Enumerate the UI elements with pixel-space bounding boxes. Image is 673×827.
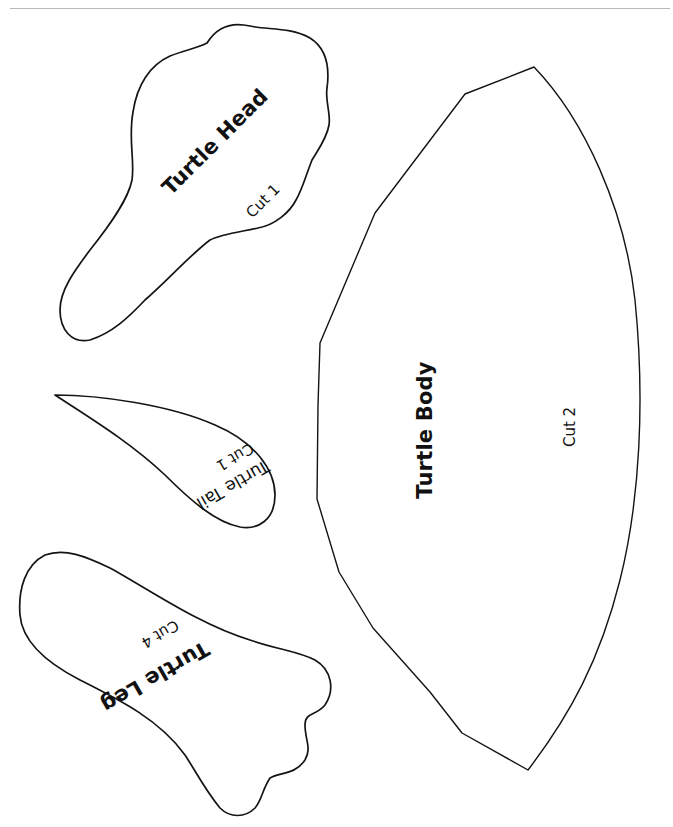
body-outline — [317, 67, 640, 770]
body-cut-count: Cut 2 — [561, 397, 579, 457]
body-title: Turtle Body — [413, 355, 437, 505]
pattern-sheet: Turtle Head Cut 1 Turtle Tail Cut 1 Turt… — [0, 0, 673, 827]
head-outline — [60, 24, 329, 340]
leg-outline — [20, 552, 331, 815]
